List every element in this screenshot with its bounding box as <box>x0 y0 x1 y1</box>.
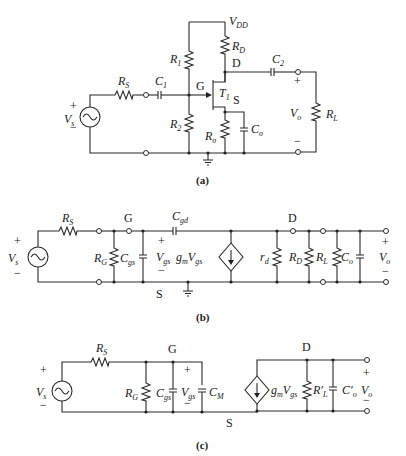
label-source: S <box>226 416 233 430</box>
label-gm-vgs: gmVgs <box>271 383 297 399</box>
ground-symbol <box>203 153 213 165</box>
label-rl: RL <box>315 250 328 266</box>
label-t1: T1 <box>219 86 230 102</box>
label-rl: RL <box>325 107 338 123</box>
label-rd-small: rd <box>260 250 270 266</box>
plus-sign: + <box>14 234 21 248</box>
label-co: Co <box>341 250 353 266</box>
circuit-figure: + − Vs RS C1 G R1 R2 VDD RD <box>0 0 406 456</box>
resistor-rl <box>312 100 320 124</box>
label-vgs: Vgs <box>181 385 195 401</box>
capacitor-co <box>329 360 337 411</box>
label-rl-prime: R′L <box>312 383 328 399</box>
resistor-rd-small <box>273 245 281 269</box>
label-vgs: Vgs <box>156 250 170 266</box>
capacitor-c1 <box>158 91 161 99</box>
resistor-rsigma <box>221 117 229 141</box>
dependent-current-source <box>245 376 269 404</box>
panel-a: + − Vs RS C1 G R1 R2 VDD RD <box>64 14 338 187</box>
vo-plus: + <box>294 74 301 88</box>
label-cm: CM <box>209 385 225 401</box>
resistor-rs <box>56 227 80 235</box>
label-drain: D <box>288 211 297 225</box>
panel-c: + − Vs RS G RG Cgs + − Vgs CM D <box>36 340 372 452</box>
label-co: C′o <box>342 383 357 399</box>
vo-minus: − <box>382 264 389 278</box>
label-rg: RG <box>124 386 138 402</box>
vgs-plus: + <box>184 363 191 377</box>
label-cgd: Cgd <box>172 209 189 225</box>
label-cgs: Cgs <box>156 386 171 402</box>
panel-b: + − Vs RS G Cgd D RG Cgs + <box>8 209 390 324</box>
label-source: S <box>233 93 240 107</box>
resistor-rl-prime <box>303 378 311 402</box>
capacitor-co <box>356 231 364 282</box>
dependent-current-source <box>219 243 243 271</box>
ac-source-vs-c <box>52 381 72 401</box>
plus-sign: + <box>70 99 77 113</box>
label-gate: G <box>168 342 177 356</box>
label-vo: Vo <box>290 106 301 122</box>
ground-symbol <box>183 282 193 296</box>
capacitor-cgs <box>169 362 177 412</box>
ac-source-vs-b <box>28 247 48 267</box>
label-vs: Vs <box>64 112 74 128</box>
label-gm-vgs: gmVgs <box>176 250 202 266</box>
label-rs: RS <box>61 211 73 227</box>
label-rs: RS <box>117 74 129 90</box>
label-vo: Vo <box>379 250 390 266</box>
capacitor-cm <box>198 389 206 412</box>
label-vdd: VDD <box>229 14 248 30</box>
label-vs: Vs <box>8 251 18 267</box>
vgs-plus: + <box>158 234 165 248</box>
resistor-rd <box>221 33 229 57</box>
resistor-rl <box>333 245 341 269</box>
label-drain: D <box>232 56 241 70</box>
vo-plus: + <box>363 366 370 380</box>
capacitor-csigma <box>240 128 248 131</box>
output-terminal-minus <box>296 150 301 155</box>
label-rg: RG <box>93 251 107 267</box>
label-vs: Vs <box>36 385 46 401</box>
label-gate: G <box>124 211 133 225</box>
caption-c: (c) <box>196 439 209 452</box>
label-c1: C1 <box>155 74 167 90</box>
resistor-rd <box>305 245 313 269</box>
label-r2: R2 <box>169 117 181 133</box>
caption-b: (b) <box>196 311 210 324</box>
resistor-rg <box>142 380 150 404</box>
label-rs: RS <box>95 341 107 357</box>
label-cgs: Cgs <box>120 251 135 267</box>
label-vo: Vo <box>361 383 372 399</box>
vo-plus: + <box>382 235 389 249</box>
resistor-r2 <box>185 111 193 135</box>
label-gate: G <box>196 79 205 93</box>
resistor-r1 <box>185 48 193 72</box>
label-r1: R1 <box>169 52 181 68</box>
input-terminal <box>144 93 149 98</box>
label-csigma: Cσ <box>251 122 264 138</box>
capacitor-c2 <box>271 68 274 76</box>
label-source: S <box>156 287 163 301</box>
vo-minus: − <box>294 134 301 148</box>
caption-a: (a) <box>196 174 209 187</box>
capacitor-cgs <box>139 231 147 282</box>
label-rd: RD <box>288 250 302 266</box>
capacitor-cgd <box>173 227 176 235</box>
label-rsigma: Rσ <box>204 129 217 145</box>
resistor-rg <box>110 245 118 269</box>
minus-sign: − <box>14 266 21 280</box>
label-c2: C2 <box>272 52 284 68</box>
resistor-rs <box>88 358 112 366</box>
resistor-rs <box>112 91 136 99</box>
label-drain: D <box>302 340 311 354</box>
label-rd: RD <box>231 39 245 55</box>
ac-source-vs <box>80 107 100 127</box>
plus-sign: + <box>40 363 47 377</box>
